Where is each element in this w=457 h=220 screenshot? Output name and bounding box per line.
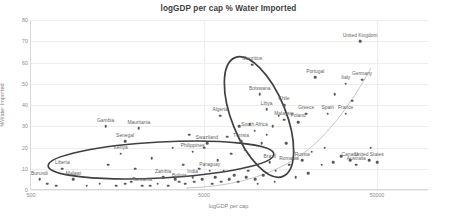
data-point-label: Bolivia: [172, 174, 186, 179]
y-tick-label: 60: [22, 60, 28, 66]
data-point: [226, 136, 229, 139]
data-point-label: India: [187, 170, 198, 175]
data-point-label: Spain: [322, 106, 335, 111]
data-point: [359, 40, 362, 43]
data-point: [314, 76, 317, 79]
data-point: [324, 146, 327, 149]
data-point: [274, 170, 277, 173]
data-point: [124, 182, 127, 185]
data-point: [72, 178, 75, 181]
data-point: [344, 82, 347, 85]
x-tick-label: 500: [27, 192, 36, 198]
gridline-horizontal: [31, 20, 428, 21]
data-point: [134, 167, 137, 170]
data-point-label: Algeria: [212, 108, 227, 113]
gridline-horizontal: [31, 190, 428, 191]
data-point: [138, 127, 141, 130]
data-point: [214, 176, 217, 179]
y-tick-label: 40: [22, 102, 28, 108]
data-point: [265, 108, 268, 111]
data-point: [171, 146, 174, 149]
data-point: [162, 176, 165, 179]
data-point: [206, 142, 209, 145]
data-point: [167, 184, 170, 187]
data-point: [256, 182, 259, 185]
data-point: [46, 182, 49, 185]
data-point: [283, 119, 286, 122]
data-point: [230, 153, 233, 156]
data-point-label: Romania: [279, 157, 299, 162]
data-point: [38, 178, 41, 181]
data-point: [261, 142, 264, 145]
exponential-trend-curve: [186, 68, 371, 188]
data-point: [141, 184, 144, 187]
data-point: [233, 174, 236, 177]
data-point: [288, 163, 291, 166]
data-point-label: Malawi: [66, 172, 81, 177]
data-point: [271, 125, 274, 128]
data-point: [191, 150, 194, 153]
data-point: [220, 180, 223, 183]
data-point: [285, 142, 288, 145]
y-tick-label: 70: [22, 38, 28, 44]
data-point-label: Australia: [347, 157, 366, 162]
data-point: [344, 112, 347, 115]
data-point: [237, 180, 240, 183]
data-point: [188, 133, 191, 136]
data-point-label: Greece: [298, 106, 314, 111]
data-point-label: Senegal: [116, 134, 134, 139]
data-point: [243, 148, 246, 151]
x-axis-title: logGDP per cap: [0, 203, 457, 209]
data-point-label: Kenya: [114, 146, 128, 151]
data-point: [351, 99, 354, 102]
gridline-horizontal: [31, 63, 428, 64]
data-point: [119, 153, 122, 156]
data-point-label: Chile: [278, 97, 289, 102]
plot-area: 01020304050607080 500500050000 United Ki…: [30, 20, 428, 190]
data-point: [149, 184, 152, 187]
data-point: [151, 157, 154, 160]
data-point: [201, 178, 204, 181]
data-point: [208, 170, 211, 173]
data-point-label: Gambia: [97, 119, 114, 124]
data-point: [332, 161, 335, 164]
data-point: [368, 159, 371, 162]
data-point: [193, 180, 196, 183]
data-point-label: Tunisia: [233, 134, 249, 139]
data-point: [178, 180, 181, 183]
data-point: [107, 163, 110, 166]
data-point: [262, 174, 265, 177]
data-point-label: Portugal: [306, 70, 324, 75]
data-point-label: Brazil: [264, 155, 276, 160]
data-point: [216, 159, 219, 162]
data-point: [265, 133, 268, 136]
data-point: [283, 104, 286, 107]
data-point-label: Poland: [290, 114, 305, 119]
data-point-label: Burundi: [31, 172, 48, 177]
data-point: [258, 93, 261, 96]
data-point: [297, 121, 300, 124]
data-point: [310, 150, 313, 153]
data-point: [61, 167, 64, 170]
data-point-label: Mauritius: [242, 57, 262, 62]
chart-title: logGDP per cap % Water Imported: [0, 4, 457, 13]
data-point: [238, 125, 241, 128]
data-point-label: Mauritania: [127, 121, 150, 126]
data-point: [85, 184, 88, 187]
data-point: [184, 182, 187, 185]
data-point: [219, 114, 222, 117]
data-point: [191, 176, 194, 179]
y-axis-title: %Water Imported: [0, 83, 5, 126]
data-point: [254, 178, 257, 181]
data-point: [369, 146, 372, 149]
data-point: [156, 182, 159, 185]
data-point: [251, 63, 254, 66]
data-point-label: Botswana: [249, 87, 270, 92]
data-point: [222, 170, 225, 173]
data-point: [240, 140, 243, 143]
data-point-label: Germany: [352, 72, 372, 77]
data-point: [361, 78, 364, 81]
gridline-horizontal: [31, 41, 428, 42]
data-point: [124, 140, 127, 143]
data-point-label: Philippines: [181, 144, 205, 149]
